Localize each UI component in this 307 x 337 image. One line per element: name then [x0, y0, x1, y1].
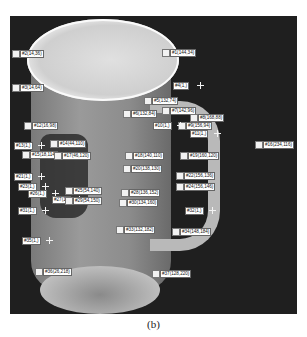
crosshair-marker-icon [42, 207, 49, 214]
grid-marker-icon [255, 141, 263, 149]
keypoint-label: #6(132,84) [131, 110, 157, 118]
grid-marker-icon [12, 50, 20, 58]
grid-marker-icon [123, 110, 131, 118]
crosshair-marker-icon [214, 130, 221, 137]
keypoint-label: #29(54,150) [73, 197, 102, 205]
grid-marker-icon [125, 152, 133, 160]
keypoint-label: #25(54,140) [73, 187, 102, 195]
keypoint-label: #37(128,220) [160, 270, 191, 278]
keypoint-label: #20(138,130) [131, 165, 162, 173]
grid-marker-icon [24, 122, 32, 130]
grid-marker-icon [50, 140, 58, 148]
grid-marker-icon [12, 84, 20, 92]
keypoint-label: #16(234,116) [263, 141, 294, 149]
mug-rim [27, 19, 179, 101]
grid-marker-icon [144, 97, 152, 105]
keypoint-label: #28(136,152) [129, 189, 160, 197]
keypoint-label: #24(156,146) [184, 183, 215, 191]
grid-marker-icon [180, 152, 188, 160]
keypoint-label: #4(1,) [173, 82, 189, 90]
keypoint-label: #22(156,136) [184, 172, 215, 180]
keypoint-label: #11(1,) [190, 130, 208, 138]
grid-marker-icon [190, 114, 198, 122]
grid-marker-icon [22, 151, 30, 159]
grid-marker-icon [121, 189, 129, 197]
keypoint-label: #1(144,34) [170, 49, 196, 57]
keypoint-label: #5(132,74) [152, 97, 178, 105]
grid-marker-icon [176, 183, 184, 191]
keypoint-label: #8(168,88) [198, 114, 224, 122]
keypoint-label: #26(1,) [28, 190, 47, 198]
keypoint-label: #9(156,94) [186, 122, 212, 130]
keypoint-label: #21(1,) [14, 173, 33, 181]
keypoint-label: #32(1,) [185, 207, 204, 215]
crosshair-marker-icon [38, 142, 45, 149]
crosshair-marker-icon [42, 183, 49, 190]
grid-marker-icon [176, 172, 184, 180]
grid-marker-icon [65, 197, 73, 205]
keypoint-label: #18(140,110) [133, 152, 164, 160]
grid-marker-icon [162, 49, 170, 57]
keypoint-label: #19(160,120) [188, 152, 219, 160]
keypoint-label: #30(134,160) [127, 199, 158, 207]
keypoint-label: #13(1,) [14, 142, 33, 150]
keypoint-label: #35(1,) [22, 237, 41, 245]
keypoint-label: #31(1,) [18, 207, 37, 215]
keypoint-label: #3(14,64) [20, 84, 44, 92]
keypoint-label: #2(14,36) [20, 50, 44, 58]
crosshair-marker-icon [38, 173, 45, 180]
keypoint-label: #14(44,110) [58, 140, 86, 148]
grid-marker-icon [162, 107, 170, 115]
grid-marker-icon [35, 268, 43, 276]
keypoint-label: #36(26,218) [43, 268, 72, 276]
grid-marker-icon [172, 228, 180, 236]
grid-marker-icon [119, 199, 127, 207]
keypoint-label: #17(46,120) [62, 152, 91, 160]
keypoint-label: #12(16,98) [32, 122, 58, 130]
figure-caption: (b) [0, 318, 307, 330]
grid-marker-icon [152, 270, 160, 278]
keypoint-label: #10(1,) [153, 122, 172, 130]
grid-marker-icon [65, 187, 73, 195]
keypoint-label: #34(148,184) [180, 228, 211, 236]
crosshair-marker-icon [177, 122, 184, 129]
keypoint-label: #33(132,182) [124, 226, 155, 234]
grid-marker-icon [54, 152, 62, 160]
crosshair-marker-icon [46, 237, 53, 244]
crosshair-marker-icon [197, 82, 204, 89]
grid-marker-icon [123, 165, 131, 173]
grid-marker-icon [116, 226, 124, 234]
crosshair-marker-icon [209, 207, 216, 214]
